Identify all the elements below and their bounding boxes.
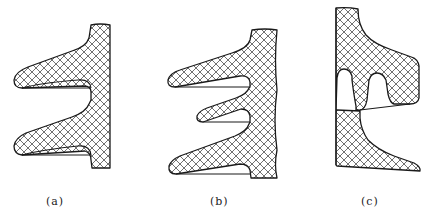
panel-label-a: (a) bbox=[46, 195, 64, 208]
insulator-profile-b bbox=[168, 29, 277, 178]
insulator-profiles-figure bbox=[0, 0, 430, 222]
panel-label-c: (c) bbox=[361, 195, 379, 208]
profile-b-body bbox=[168, 29, 277, 178]
profile-a-body bbox=[14, 24, 110, 168]
profile-c-body bbox=[336, 8, 420, 171]
insulator-profile-a bbox=[14, 24, 110, 168]
insulator-profile-c bbox=[336, 8, 420, 171]
panel-label-b: (b) bbox=[210, 195, 229, 208]
